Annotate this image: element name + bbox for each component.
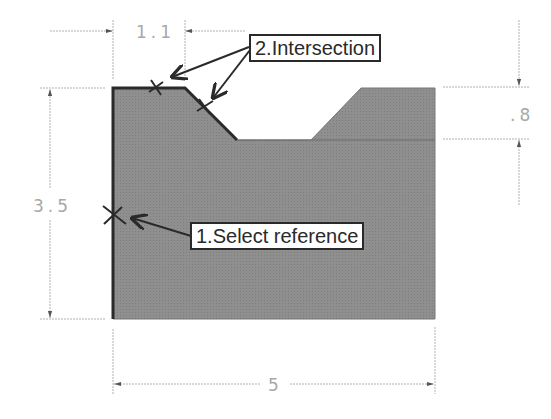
dim-text-width: 5 <box>268 375 283 395</box>
callout-2-leader-a <box>172 47 249 77</box>
sketch-canvas: 1.1 3.5 5 .8 <box>0 0 551 419</box>
dim-text-top-flat: 1.1 <box>136 22 175 42</box>
callout-intersection: 2.Intersection <box>249 34 381 62</box>
dim-text-groove-depth: .8 <box>510 105 534 125</box>
dimension-width[interactable]: 5 <box>113 327 435 395</box>
dimension-top-flat[interactable]: 1.1 <box>50 20 245 80</box>
callout-2-leader-b <box>213 50 250 98</box>
part-profile[interactable] <box>113 88 435 319</box>
callout-select-reference: 1.Select reference <box>190 222 364 250</box>
dim-text-height: 3.5 <box>33 196 72 216</box>
dimension-groove-depth[interactable]: .8 <box>443 20 534 205</box>
dimension-height[interactable]: 3.5 <box>33 88 106 319</box>
